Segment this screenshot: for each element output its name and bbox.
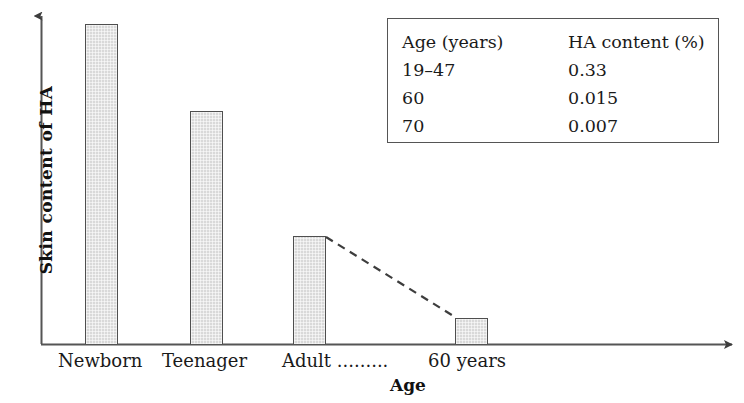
inset-table-row-ha: 0.007 [568, 113, 705, 139]
inset-data-table: Age (years) HA content (%) 19–47 0.33 60… [387, 18, 719, 143]
inset-table-row-age: 19–47 [402, 57, 568, 83]
bar-newborn [85, 24, 118, 344]
inset-table-header-age: Age (years) [402, 29, 568, 55]
x-tick-label-teenager: Teenager [162, 350, 247, 372]
x-tick-label-newborn: Newborn [58, 350, 142, 372]
inset-table-row-age: 70 [402, 113, 568, 139]
bar-60-years [455, 318, 488, 344]
x-tick-label-adult: Adult ......... [282, 350, 388, 372]
inset-table-header-ha: HA content (%) [568, 29, 705, 55]
inset-table-row-ha: 0.33 [568, 57, 705, 83]
inset-table-row-ha: 0.015 [568, 85, 705, 111]
trend-dashed-line [326, 237, 455, 317]
x-axis-title: Age [360, 375, 456, 395]
bar-adult [293, 236, 326, 344]
y-axis-title: Skin content of HA [36, 80, 56, 280]
chart-figure: Newborn Teenager Adult ......... 60 year… [0, 0, 744, 403]
x-tick-label-60-years: 60 years [428, 350, 506, 372]
bar-teenager [190, 111, 223, 344]
inset-table-row-age: 60 [402, 85, 568, 111]
inset-table-grid: Age (years) HA content (%) 19–47 0.33 60… [402, 29, 705, 139]
